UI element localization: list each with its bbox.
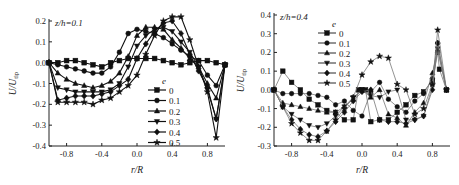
series-point-marker [107, 95, 113, 101]
series-point-marker [72, 99, 78, 105]
series-point-marker [73, 67, 78, 72]
legend-label: 0 [169, 86, 174, 96]
legend-item-0.3: 0.3 [318, 59, 351, 69]
series-point-marker [55, 62, 60, 67]
series-point-marker [403, 87, 409, 93]
y-tick-label: 0.1 [260, 66, 271, 76]
series-point-marker [412, 117, 417, 123]
y-tick-label: 0.3 [260, 29, 271, 39]
series-point-marker [342, 118, 347, 123]
series-point-marker [369, 119, 374, 124]
legend-marker [155, 88, 160, 93]
y-tick-label: 0.2 [35, 16, 46, 26]
legend-label: 0.3 [169, 117, 181, 127]
series-point-marker [316, 103, 321, 108]
series-point-marker [386, 97, 391, 102]
x-tick-label: 0.8 [202, 149, 213, 159]
y-axis-label: U/Utip [8, 72, 19, 95]
series-point-marker [413, 99, 418, 104]
right-chart-panel: 0.40.30.20.10.0-0.1-0.2-0.3-0.8-0.40.00.… [236, 10, 450, 175]
series-point-marker [90, 101, 96, 107]
legend-marker [154, 129, 159, 135]
x-axis-label: r/R [356, 165, 368, 175]
series-point-marker [281, 69, 286, 74]
y-tick-label: -0.1 [258, 104, 271, 114]
legend-marker [155, 98, 160, 103]
legend-marker [324, 70, 329, 76]
series-point-marker [205, 73, 210, 78]
y-tick-label: 0.4 [260, 10, 271, 20]
legend-marker [324, 61, 329, 66]
series-point-marker [99, 97, 105, 103]
series-point-marker [161, 58, 166, 63]
series-point-marker [213, 134, 219, 140]
series-point-marker [316, 93, 321, 98]
legend-label: 0.4 [339, 69, 351, 79]
y-tick-label: 0.0 [35, 58, 46, 68]
series-point-marker [315, 125, 320, 130]
legend-title: e [332, 19, 336, 29]
series-point-marker [351, 118, 356, 123]
series-point-marker [91, 71, 96, 76]
series-point-marker [421, 91, 426, 96]
y-tick-label: -0.4 [33, 141, 47, 151]
legend-label: 0.1 [339, 39, 350, 49]
series-point-marker [143, 29, 148, 34]
series-point-marker [281, 91, 286, 96]
chart-svg: 0.20.10.0-0.1-0.2-0.3-0.4-0.8-0.40.00.40… [0, 0, 459, 185]
series-point-marker [307, 97, 312, 102]
x-tick-label: 0.0 [132, 149, 143, 159]
series-point-marker [359, 72, 365, 78]
y-tick-label: -0.3 [258, 141, 271, 151]
legend: e00.10.20.30.40.5 [318, 19, 351, 89]
legend-label: 0.5 [339, 79, 351, 89]
series-point-marker [117, 50, 122, 55]
series-point-marker [64, 76, 69, 81]
series-point-marker [91, 62, 96, 67]
series-point-marker [377, 87, 382, 92]
series-point-marker [307, 91, 312, 96]
legend-item-0.2: 0.2 [148, 107, 180, 117]
panel-annotation: z/h=0.1 [54, 18, 83, 28]
series-point-marker [99, 71, 104, 76]
series-point-marker [377, 96, 382, 101]
series-point-marker [64, 58, 69, 63]
series-point-marker [386, 111, 391, 116]
series-point-marker [170, 42, 175, 47]
legend-item-0.5: 0.5 [318, 79, 351, 89]
legend-marker [325, 31, 330, 36]
series-point-marker [386, 90, 391, 95]
legend-item-0.1: 0.1 [318, 39, 350, 49]
legend-item-0.4: 0.4 [148, 128, 181, 138]
legend-title: e [162, 76, 166, 86]
series-point-marker [360, 114, 365, 119]
series-point-marker [342, 99, 347, 104]
series-point-marker [187, 60, 192, 65]
series-point-marker [117, 70, 122, 75]
series-point-marker [161, 35, 166, 40]
series-point-marker [205, 58, 210, 63]
series-point-marker [126, 65, 131, 70]
series-point-marker [134, 44, 139, 49]
series-point-marker [437, 67, 442, 72]
x-tick-label: 0.0 [357, 149, 368, 159]
series-point-marker [368, 59, 374, 65]
series-point-marker [170, 60, 175, 65]
series-point-marker [82, 60, 87, 65]
legend-item-0: 0 [318, 29, 344, 39]
series-point-marker [81, 99, 87, 105]
series-point-marker [404, 103, 409, 108]
legend: e00.10.20.30.40.5 [148, 76, 181, 148]
series-point-marker [214, 60, 219, 65]
figure: 0.20.10.0-0.1-0.2-0.3-0.4-0.8-0.40.00.40… [0, 0, 459, 185]
y-tick-label: 0.1 [35, 37, 46, 47]
series-point-marker [179, 62, 184, 67]
series-point-marker [90, 93, 95, 99]
series-point-marker [108, 64, 113, 69]
series-point-marker [413, 93, 418, 98]
series-point-marker [289, 112, 294, 117]
legend-label: 0.2 [339, 49, 350, 59]
y-tick-label: -0.1 [33, 79, 46, 89]
series-point-marker [73, 58, 78, 63]
x-tick-label: 0.4 [392, 149, 403, 159]
